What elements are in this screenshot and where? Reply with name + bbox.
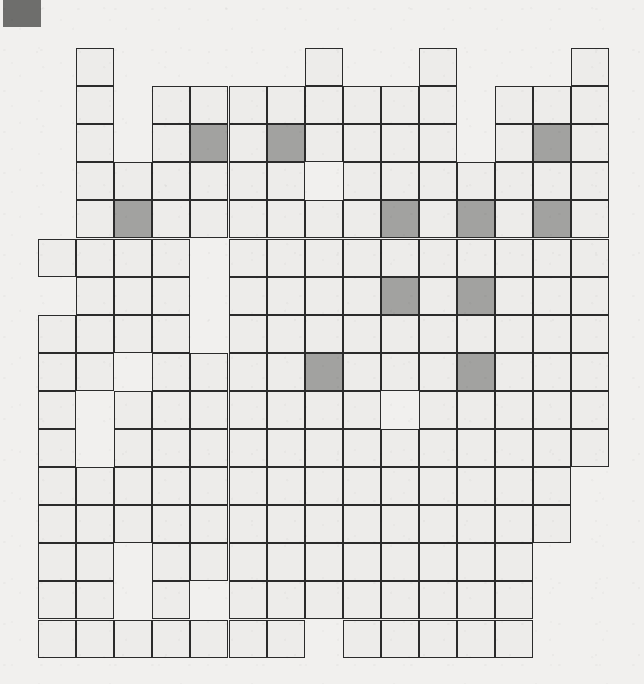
- grid-cell[interactable]: [267, 429, 305, 467]
- grid-cell[interactable]: [457, 581, 495, 619]
- grid-cell[interactable]: [76, 277, 114, 315]
- grid-cell[interactable]: [229, 543, 267, 581]
- grid-cell[interactable]: [76, 86, 114, 124]
- grid-cell[interactable]: [457, 429, 495, 467]
- grid-cell[interactable]: [419, 200, 457, 238]
- grid-cell[interactable]: [533, 86, 571, 124]
- grid-cell[interactable]: [495, 391, 533, 429]
- grid-cell[interactable]: [305, 48, 343, 86]
- grid-cell[interactable]: [152, 391, 190, 429]
- grid-cell[interactable]: [343, 277, 381, 315]
- grid-cell[interactable]: [571, 86, 609, 124]
- grid-cell[interactable]: [381, 467, 419, 505]
- grid-cell[interactable]: [267, 543, 305, 581]
- grid-cell[interactable]: [533, 353, 571, 391]
- grid-cell[interactable]: [190, 162, 228, 200]
- grid-cell[interactable]: [571, 124, 609, 162]
- grid-cell[interactable]: [76, 200, 114, 238]
- grid-cell[interactable]: [343, 200, 381, 238]
- grid-cell[interactable]: [381, 124, 419, 162]
- grid-cell[interactable]: [381, 620, 419, 658]
- grid-cell[interactable]: [229, 315, 267, 353]
- grid-cell[interactable]: [76, 162, 114, 200]
- grid-cell[interactable]: [419, 467, 457, 505]
- grid-cell[interactable]: [495, 239, 533, 277]
- grid-cell[interactable]: [267, 124, 305, 162]
- grid-cell[interactable]: [343, 429, 381, 467]
- grid-cell[interactable]: [381, 200, 419, 238]
- grid-cell[interactable]: [38, 429, 76, 467]
- grid-cell[interactable]: [495, 467, 533, 505]
- grid-cell[interactable]: [571, 239, 609, 277]
- grid-cell[interactable]: [419, 48, 457, 86]
- grid-cell[interactable]: [305, 200, 343, 238]
- grid-cell[interactable]: [229, 162, 267, 200]
- grid-cell[interactable]: [305, 467, 343, 505]
- grid-cell[interactable]: [571, 391, 609, 429]
- grid-cell[interactable]: [267, 277, 305, 315]
- grid-cell[interactable]: [305, 86, 343, 124]
- grid-cell[interactable]: [343, 620, 381, 658]
- grid-cell[interactable]: [76, 124, 114, 162]
- grid-cell[interactable]: [495, 277, 533, 315]
- grid-cell[interactable]: [229, 353, 267, 391]
- grid-cell[interactable]: [457, 200, 495, 238]
- grid-cell[interactable]: [381, 277, 419, 315]
- grid-cell[interactable]: [190, 467, 228, 505]
- grid-cell[interactable]: [571, 48, 609, 86]
- grid-cell[interactable]: [495, 581, 533, 619]
- grid-cell[interactable]: [152, 467, 190, 505]
- grid-cell[interactable]: [76, 620, 114, 658]
- grid-cell[interactable]: [267, 581, 305, 619]
- grid-cell[interactable]: [457, 315, 495, 353]
- grid-cell[interactable]: [457, 277, 495, 315]
- grid-cell[interactable]: [114, 239, 152, 277]
- grid-cell[interactable]: [76, 48, 114, 86]
- grid-cell[interactable]: [305, 315, 343, 353]
- grid-cell[interactable]: [419, 315, 457, 353]
- grid-cell[interactable]: [381, 162, 419, 200]
- grid-cell[interactable]: [419, 277, 457, 315]
- grid-cell[interactable]: [76, 467, 114, 505]
- grid-cell[interactable]: [267, 239, 305, 277]
- grid-cell[interactable]: [457, 620, 495, 658]
- grid-cell[interactable]: [229, 429, 267, 467]
- puzzle-grid[interactable]: [38, 48, 610, 658]
- grid-cell[interactable]: [38, 467, 76, 505]
- grid-cell[interactable]: [76, 353, 114, 391]
- grid-cell[interactable]: [152, 505, 190, 543]
- grid-cell[interactable]: [419, 505, 457, 543]
- grid-cell[interactable]: [229, 277, 267, 315]
- grid-cell[interactable]: [571, 429, 609, 467]
- grid-cell[interactable]: [267, 620, 305, 658]
- grid-cell[interactable]: [114, 429, 152, 467]
- grid-cell[interactable]: [419, 581, 457, 619]
- grid-cell[interactable]: [533, 239, 571, 277]
- grid-cell[interactable]: [114, 277, 152, 315]
- grid-cell[interactable]: [114, 505, 152, 543]
- grid-cell[interactable]: [533, 429, 571, 467]
- grid-cell[interactable]: [114, 315, 152, 353]
- grid-cell[interactable]: [343, 505, 381, 543]
- grid-cell[interactable]: [152, 200, 190, 238]
- grid-cell[interactable]: [457, 467, 495, 505]
- grid-cell[interactable]: [38, 581, 76, 619]
- grid-cell[interactable]: [152, 620, 190, 658]
- grid-cell[interactable]: [571, 315, 609, 353]
- grid-cell[interactable]: [533, 467, 571, 505]
- grid-cell[interactable]: [114, 467, 152, 505]
- grid-cell[interactable]: [343, 162, 381, 200]
- grid-cell[interactable]: [38, 620, 76, 658]
- grid-cell[interactable]: [495, 162, 533, 200]
- grid-cell[interactable]: [267, 86, 305, 124]
- grid-cell[interactable]: [229, 467, 267, 505]
- grid-cell[interactable]: [381, 581, 419, 619]
- grid-cell[interactable]: [571, 353, 609, 391]
- grid-cell[interactable]: [343, 315, 381, 353]
- grid-cell[interactable]: [495, 353, 533, 391]
- grid-cell[interactable]: [152, 277, 190, 315]
- grid-cell[interactable]: [152, 86, 190, 124]
- grid-cell[interactable]: [381, 86, 419, 124]
- grid-cell[interactable]: [533, 315, 571, 353]
- grid-cell[interactable]: [533, 277, 571, 315]
